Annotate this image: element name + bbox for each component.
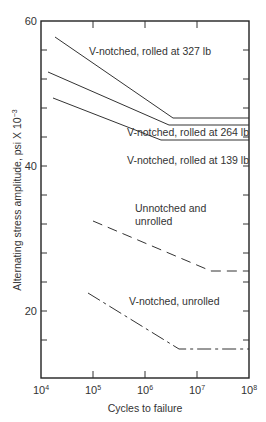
y-tick-label-40: 40 [25,160,37,172]
series-label-unnotched-line2: unrolled [135,215,173,227]
series-label-vnotched-unrolled: V-notched, unrolled [129,295,220,307]
fatigue-chart: 60 40 20 104 105 106 107 108 Cycles to f… [0,0,266,422]
y-axis-title: Alternating stress amplitude, psi X 10−3 [11,109,23,290]
x-tick-label-1e5: 105 [85,384,101,396]
series-label-264lb: V-notched, rolled at 264 lb [127,126,249,138]
y-ticks-right [243,50,249,340]
x-axis-title: Cycles to failure [108,402,183,414]
series-line-264lb [48,72,249,125]
x-tick-labels: 104 105 106 107 108 [33,384,257,396]
y-tick-label-60: 60 [25,15,37,27]
x-tick-label-1e7: 107 [189,384,205,396]
x-tick-label-1e8: 108 [241,384,257,396]
y-tick-label-20: 20 [25,305,37,317]
plot-frame [41,21,249,378]
x-tick-label-1e4: 104 [33,384,49,396]
series-line-unnotched-unrolled [93,221,249,271]
x-tick-label-1e6: 106 [137,384,153,396]
series-label-unnotched-line1: Unnotched and [135,202,206,214]
series-label-139lb: V-notched, rolled at 139 lb [127,154,249,166]
series-label-327lb: V-notched, rolled at 327 lb [89,45,211,57]
x-ticks [93,21,197,378]
y-ticks-left [41,50,47,340]
